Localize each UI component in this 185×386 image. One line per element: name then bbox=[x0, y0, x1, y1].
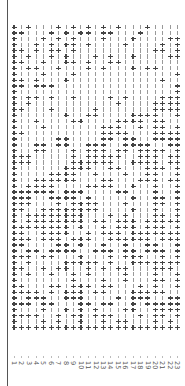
column-label-text: 7 bbox=[55, 361, 62, 365]
column-tick bbox=[70, 356, 77, 358]
column-label-text: 19 bbox=[144, 361, 151, 369]
column-label-text: 18 bbox=[137, 361, 144, 369]
column-tick bbox=[47, 356, 54, 358]
column-tick bbox=[92, 356, 99, 358]
column-tick bbox=[55, 356, 62, 358]
column-tick bbox=[129, 356, 136, 358]
plus-sign-icon: + bbox=[136, 324, 143, 330]
plus-sign-icon: + bbox=[70, 324, 77, 330]
column-label: 9 bbox=[70, 361, 77, 385]
column-label-text: 22 bbox=[167, 361, 174, 369]
plus-sign-icon: + bbox=[144, 324, 151, 330]
plus-sign-icon: + bbox=[25, 324, 32, 330]
plus-sign-icon: + bbox=[166, 324, 173, 330]
column-label-text: 23 bbox=[174, 361, 181, 369]
column-label: 14 bbox=[107, 361, 114, 385]
column-label-text: 6 bbox=[48, 361, 55, 365]
column-label: 11 bbox=[84, 361, 91, 385]
plus-sign-icon: + bbox=[10, 324, 17, 330]
column-tick bbox=[136, 356, 143, 358]
column-tick bbox=[174, 356, 181, 358]
column-ticks bbox=[10, 356, 181, 358]
plus-sign-icon: + bbox=[99, 324, 106, 330]
column-tick bbox=[77, 356, 84, 358]
column-label-text: 10 bbox=[77, 361, 84, 369]
plus-sign-icon: + bbox=[92, 324, 99, 330]
column-label: 23 bbox=[174, 361, 181, 385]
column-label-text: 21 bbox=[159, 361, 166, 369]
plus-sign-icon: + bbox=[107, 324, 114, 330]
column-label-text: 15 bbox=[115, 361, 122, 369]
column-label: 2 bbox=[17, 361, 24, 385]
column-label: 18 bbox=[136, 361, 143, 385]
plus-sign-icon: + bbox=[62, 324, 69, 330]
column-label-text: 12 bbox=[92, 361, 99, 369]
column-tick bbox=[99, 356, 106, 358]
column-label: 12 bbox=[92, 361, 99, 385]
column-label-text: 1 bbox=[10, 361, 17, 365]
column-label-text: 17 bbox=[129, 361, 136, 369]
column-tick bbox=[151, 356, 158, 358]
column-tick bbox=[122, 356, 129, 358]
plus-sign-icon: + bbox=[84, 324, 91, 330]
sign-matrix: +−+−−−+−+−+−+−+−−−+−−−−++−−−+−+−++−++−−−… bbox=[10, 24, 182, 330]
column-tick bbox=[40, 356, 47, 358]
plus-sign-icon: + bbox=[55, 324, 62, 330]
column-label: 21 bbox=[159, 361, 166, 385]
column-tick bbox=[84, 356, 91, 358]
plus-sign-icon: + bbox=[17, 324, 24, 330]
column-label-text: 14 bbox=[107, 361, 114, 369]
column-label: 5 bbox=[40, 361, 47, 385]
plus-sign-icon: + bbox=[77, 324, 84, 330]
plus-sign-icon: + bbox=[47, 324, 54, 330]
column-label-text: 2 bbox=[18, 361, 25, 365]
column-label: 10 bbox=[77, 361, 84, 385]
column-tick bbox=[159, 356, 166, 358]
column-label-text: 11 bbox=[85, 361, 92, 369]
column-label: 7 bbox=[55, 361, 62, 385]
column-label-text: 9 bbox=[70, 361, 77, 365]
matrix-row: +++++++++++++++++++++++ bbox=[10, 324, 182, 330]
plus-sign-icon: + bbox=[151, 324, 158, 330]
column-tick bbox=[62, 356, 69, 358]
plus-sign-icon: + bbox=[114, 324, 121, 330]
column-tick bbox=[107, 356, 114, 358]
column-tick bbox=[17, 356, 24, 358]
column-tick bbox=[166, 356, 173, 358]
column-label-text: 16 bbox=[122, 361, 129, 369]
column-tick bbox=[32, 356, 39, 358]
column-label: 19 bbox=[144, 361, 151, 385]
column-label-text: 5 bbox=[40, 361, 47, 365]
column-label: 3 bbox=[25, 361, 32, 385]
column-tick bbox=[10, 356, 17, 358]
column-tick bbox=[25, 356, 32, 358]
plus-sign-icon: + bbox=[159, 324, 166, 330]
column-labels: 1234567891011121314151617181920212223 bbox=[10, 361, 181, 385]
column-tick bbox=[144, 356, 151, 358]
column-label-text: 3 bbox=[25, 361, 32, 365]
left-border-line bbox=[7, 0, 8, 386]
column-label: 16 bbox=[122, 361, 129, 385]
plus-sign-icon: + bbox=[40, 324, 47, 330]
plus-sign-icon: + bbox=[122, 324, 129, 330]
column-label-text: 8 bbox=[63, 361, 70, 365]
plus-sign-icon: + bbox=[32, 324, 39, 330]
plus-sign-icon: + bbox=[129, 324, 136, 330]
column-label-text: 13 bbox=[100, 361, 107, 369]
column-tick bbox=[114, 356, 121, 358]
plus-sign-icon: + bbox=[174, 324, 181, 330]
